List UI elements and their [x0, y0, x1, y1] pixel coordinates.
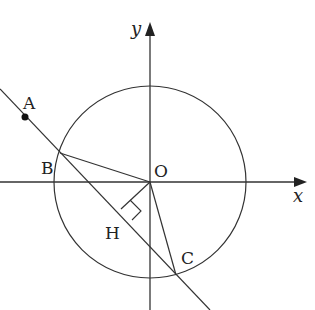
right-angle-mark-icon [130, 200, 141, 220]
geometry-diagram: A B O H C x y [0, 0, 315, 310]
label-x-axis: x [293, 185, 303, 206]
point-a-dot-icon [22, 114, 29, 121]
segment-bo [60, 153, 150, 182]
label-o: O [154, 161, 168, 181]
label-h: H [105, 223, 120, 243]
label-y-axis: y [130, 18, 142, 39]
y-axis-arrow-icon [145, 22, 155, 36]
line-abc [0, 89, 210, 310]
label-b: B [41, 158, 54, 178]
label-a: A [22, 93, 36, 113]
label-c: C [181, 248, 194, 268]
